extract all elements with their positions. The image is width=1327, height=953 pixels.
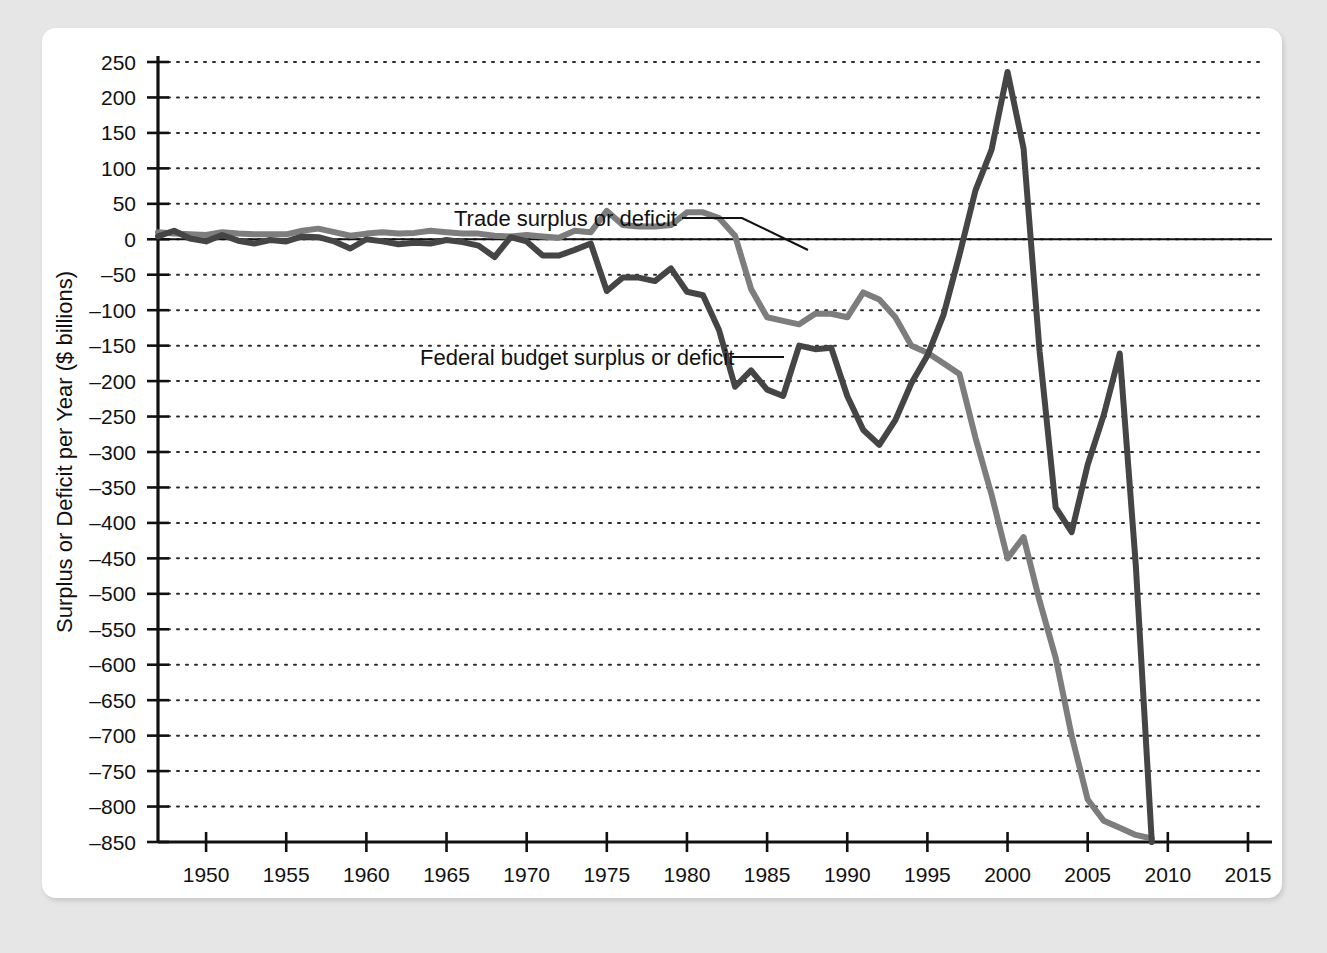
- y-axis-tick-label: –50: [101, 263, 136, 286]
- y-axis-title: Surplus or Deficit per Year ($ billions): [52, 271, 77, 633]
- x-axis-tick-label: 2015: [1225, 863, 1272, 886]
- y-axis-tick-label: 100: [101, 157, 136, 180]
- y-axis-tick-label: –800: [89, 795, 136, 818]
- x-axis-tick-label: 2000: [984, 863, 1031, 886]
- x-axis-tick-label: 1985: [744, 863, 791, 886]
- y-axis-tick-label: –100: [89, 299, 136, 322]
- y-axis-tick-label: –400: [89, 511, 136, 534]
- y-axis-tick-label: –550: [89, 618, 136, 641]
- y-axis-tick-labels: 250200150100500–50–100–150–200–250–300–3…: [89, 51, 136, 854]
- y-axis-tick-label: –650: [89, 689, 136, 712]
- x-axis-tick-label: 1955: [263, 863, 310, 886]
- y-axis-tick-label: –200: [89, 370, 136, 393]
- x-axis-tick-label: 1950: [183, 863, 230, 886]
- y-axis-tick-label: –700: [89, 724, 136, 747]
- series-line-trade-surplus-or-deficit: [158, 211, 1152, 839]
- y-axis-tick-label: 150: [101, 121, 136, 144]
- line-chart: 250200150100500–50–100–150–200–250–300–3…: [42, 28, 1282, 898]
- chart-panel: 250200150100500–50–100–150–200–250–300–3…: [42, 28, 1282, 898]
- x-axis-tick-label: 1960: [343, 863, 390, 886]
- y-axis-tick-label: –450: [89, 547, 136, 570]
- x-axis-tick-label: 1970: [503, 863, 550, 886]
- y-axis-tick-label: 250: [101, 51, 136, 74]
- x-axis-tick-label: 1980: [664, 863, 711, 886]
- x-axis-tick-labels: 1950195519601965197019751980198519901995…: [183, 863, 1272, 886]
- y-axis-tick-label: –750: [89, 760, 136, 783]
- trade-annotation-leader-line: [682, 218, 808, 250]
- series-line-federal-budget-surplus-or-deficit: [158, 72, 1152, 842]
- y-axis-tick-label: –600: [89, 653, 136, 676]
- budget-annotation-label: Federal budget surplus or deficit: [420, 345, 734, 370]
- y-axis-tick-label: –150: [89, 334, 136, 357]
- x-axis-tick-label: 1990: [824, 863, 871, 886]
- trade-annotation-label: Trade surplus or deficit: [454, 206, 677, 231]
- y-axis-tick-label: –250: [89, 405, 136, 428]
- y-axis-tick-label: –300: [89, 441, 136, 464]
- data-series: [158, 72, 1152, 842]
- y-axis-tick-label: –850: [89, 831, 136, 854]
- y-axis-tick-label: 0: [124, 228, 136, 251]
- x-axis-tick-label: 1995: [904, 863, 951, 886]
- figure-container: 250200150100500–50–100–150–200–250–300–3…: [0, 0, 1327, 953]
- x-axis-tick-label: 2010: [1144, 863, 1191, 886]
- y-axis-tick-label: 50: [113, 192, 136, 215]
- y-axis-tick-label: –350: [89, 476, 136, 499]
- x-axis-tick-label: 1965: [423, 863, 470, 886]
- y-axis-tick-label: 200: [101, 86, 136, 109]
- y-axis-tick-label: –500: [89, 582, 136, 605]
- x-axis-tick-label: 2005: [1064, 863, 1111, 886]
- x-axis-tick-label: 1975: [583, 863, 630, 886]
- axes: [147, 56, 1272, 852]
